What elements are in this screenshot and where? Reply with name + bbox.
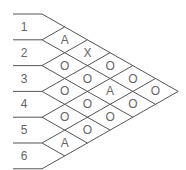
diamond-cell: A [61, 136, 69, 150]
diamond-cell: O [151, 84, 160, 98]
diamond-cell: O [128, 72, 137, 86]
diagonal-down-line [42, 40, 156, 105]
diamond-cell: O [60, 59, 69, 73]
diamond-cell: O [83, 123, 92, 137]
diagonal-up-line [42, 53, 110, 92]
row-label: 4 [21, 97, 28, 111]
diamond-cell: O [105, 59, 114, 73]
row-label: 6 [21, 149, 28, 163]
diamond-cell: A [61, 33, 69, 47]
row-label: 5 [21, 123, 28, 137]
diamond-cell: X [83, 46, 91, 60]
diamond-cell: O [128, 97, 137, 111]
diagonal-up-line [42, 79, 156, 144]
diagonal-down-line [42, 91, 110, 130]
row-label: 1 [21, 20, 28, 34]
diamond-cell: O [83, 72, 92, 86]
diamond-cell: O [83, 97, 92, 111]
diamond-cell: A [106, 84, 114, 98]
triangular-diamond-grid: 123456 AOOOAXOOOOAOOOO [0, 0, 186, 170]
diamond-cell: O [60, 110, 69, 124]
row-label: 3 [21, 72, 28, 86]
diamond-cell: O [60, 84, 69, 98]
cell-values: AOOOAXOOOOAOOOO [60, 33, 160, 150]
diamond-cell: O [105, 110, 114, 124]
row-label: 2 [21, 46, 28, 60]
